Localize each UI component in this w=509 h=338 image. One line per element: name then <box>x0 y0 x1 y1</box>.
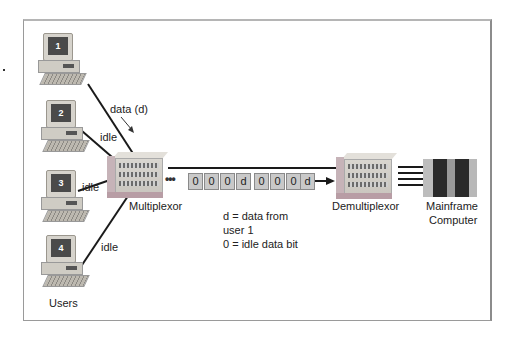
stream-bit-6: 0 <box>270 173 285 190</box>
multiplexor-label: Multiplexor <box>129 200 182 213</box>
demultiplexor-device <box>336 153 392 199</box>
stream-ellipsis: ••• <box>165 172 175 186</box>
link-label-user-3: idle <box>82 181 99 194</box>
link-label-user-2: idle <box>100 131 117 144</box>
legend-line-1: d = data from <box>223 210 288 223</box>
stream-bit-4: d <box>236 173 251 190</box>
mainframe-label-line-2: Computer <box>429 214 477 227</box>
legend-line-3: 0 = idle data bit <box>223 238 298 251</box>
user-computer-1: 1 <box>38 33 82 85</box>
stream-bit-3: 0 <box>220 173 235 190</box>
user-computer-4: 4 <box>41 235 85 287</box>
stream-bit-7: 0 <box>286 173 301 190</box>
link-label-user-4: idle <box>101 241 118 254</box>
users-label: Users <box>49 297 78 310</box>
stream-bit-2: 0 <box>204 173 219 190</box>
user-computer-3: 3 <box>41 170 85 222</box>
mainframe-computer <box>423 159 477 197</box>
stream-bit-8: d <box>300 173 315 190</box>
demultiplexor-label: Demultiplexor <box>332 200 399 213</box>
mainframe-label-line-1: Mainframe <box>426 200 478 213</box>
stream-bit-1: 0 <box>188 173 203 190</box>
link-label-user-1: data (d) <box>110 103 148 116</box>
legend-line-2: user 1 <box>223 224 254 237</box>
multiplexor-device <box>107 152 163 198</box>
stream-bit-5: 0 <box>254 173 269 190</box>
user-computer-2: 2 <box>41 100 85 152</box>
